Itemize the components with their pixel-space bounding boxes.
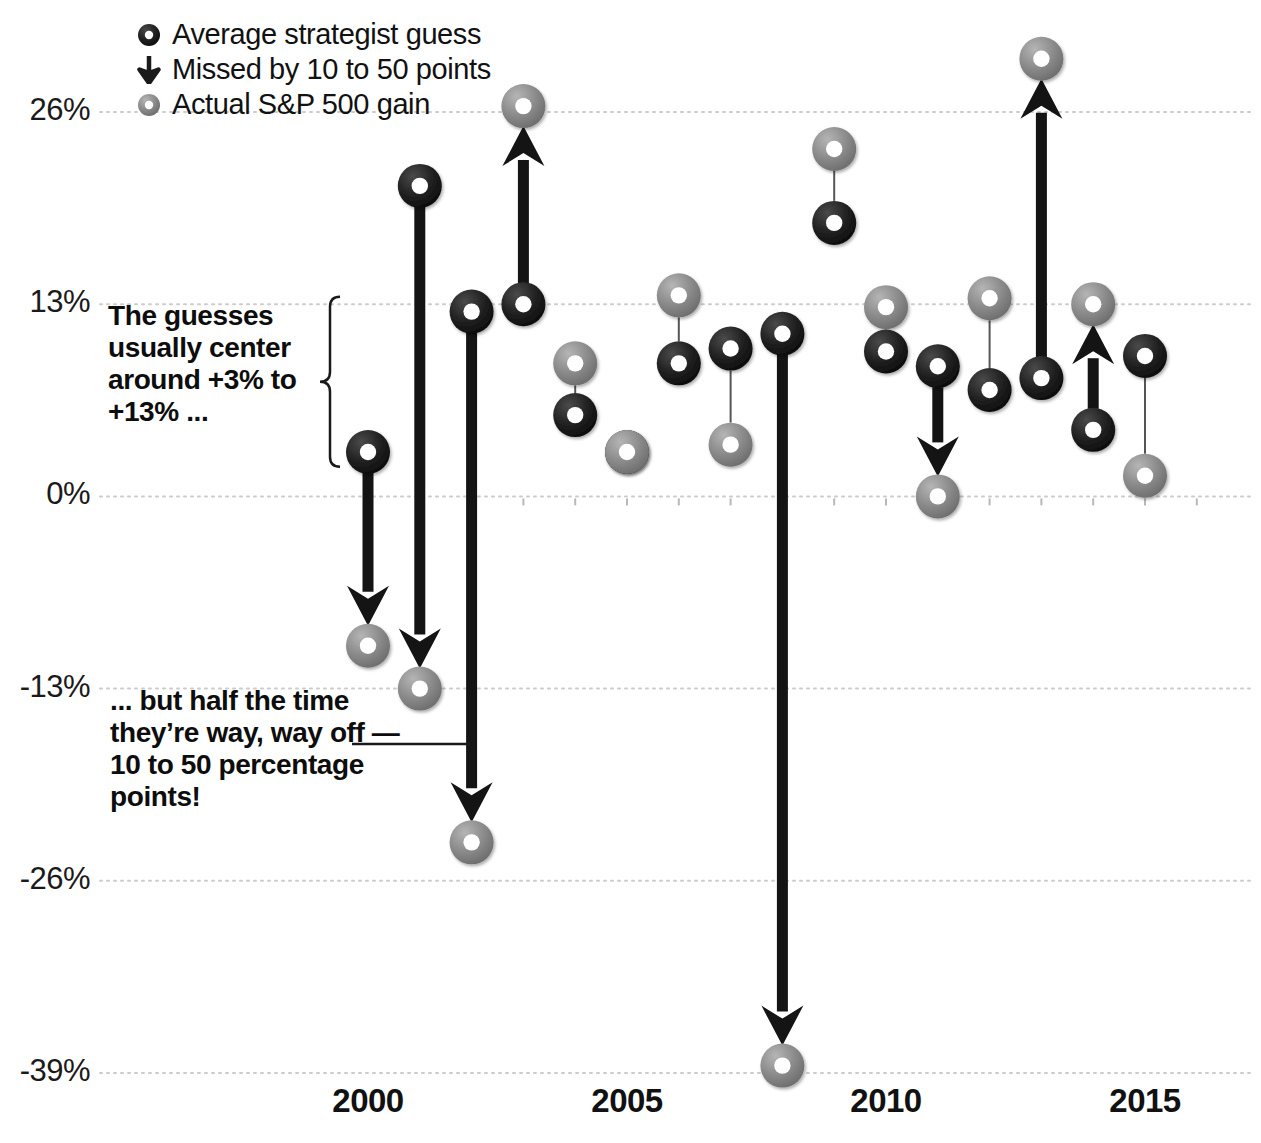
legend-item-actual: Actual S&P 500 gain [134, 88, 554, 121]
marker-actual-2007 [709, 423, 753, 467]
miss-arrow-2001 [399, 207, 441, 669]
x-axis-label-2015: 2015 [1075, 1082, 1215, 1120]
connector-lines-group [575, 171, 1145, 454]
y-axis-label-5: -39% [0, 1053, 90, 1089]
marker-guess-2002 [450, 290, 494, 334]
miss-arrow-2008 [761, 355, 803, 1046]
x-axis-label-2005: 2005 [557, 1082, 697, 1120]
marker-guess-2011 [916, 344, 960, 388]
miss-arrow-2011 [917, 387, 959, 476]
miss-arrow-2003 [502, 126, 544, 283]
marker-actual-2015 [1123, 454, 1167, 498]
miss-arrow-2002 [451, 333, 493, 823]
marker-guess-2013 [1019, 356, 1063, 400]
annotation-center-range: The guesses usually center around +3% to… [108, 300, 358, 428]
legend-label-actual: Actual S&P 500 gain [172, 88, 430, 121]
y-axis-label-0: 26% [0, 92, 90, 128]
marker-guess-2008 [760, 312, 804, 356]
marker-guess-2014 [1071, 408, 1115, 452]
x-axis-label-2010: 2010 [816, 1082, 956, 1120]
legend-item-missed: Missed by 10 to 50 points [134, 53, 554, 86]
y-axis-label-1: 13% [0, 284, 90, 320]
y-axis-label-3: -13% [0, 669, 90, 705]
marker-actual-2013 [1019, 37, 1063, 81]
marker-guess-2000 [346, 430, 390, 474]
marker-guess-2012 [968, 368, 1012, 412]
gray-donut-icon [134, 90, 164, 120]
marker-guess-2015 [1123, 334, 1167, 378]
gridlines-group [100, 112, 1250, 1073]
marker-guess-2004 [553, 393, 597, 437]
marker-actual-2002 [450, 820, 494, 864]
down-arrow-icon [134, 55, 164, 85]
legend: Average strategist guess Missed by 10 to… [134, 18, 554, 123]
scatter-plot-svg [0, 0, 1261, 1143]
marker-guess-2007 [709, 327, 753, 371]
miss-arrow-2013 [1020, 79, 1062, 357]
marker-guess-2006 [657, 341, 701, 385]
annotation-way-off: ... but half the time they’re way, way o… [110, 685, 410, 813]
miss-arrows-group [347, 79, 1114, 1046]
x-axis-label-2000: 2000 [298, 1082, 438, 1120]
legend-label-missed: Missed by 10 to 50 points [172, 53, 491, 86]
legend-label-guess: Average strategist guess [172, 18, 481, 51]
marker-actual-2010 [864, 285, 908, 329]
marker-actual-2012 [968, 276, 1012, 320]
marker-actual-2008 [760, 1044, 804, 1088]
marker-guess-2003 [501, 282, 545, 326]
marker-actual-2005 [605, 430, 649, 474]
dark-donut-icon [134, 20, 164, 50]
marker-actual-2000 [346, 624, 390, 668]
marker-actual-2009 [812, 127, 856, 171]
y-axis-label-4: -26% [0, 861, 90, 897]
marker-actual-2006 [657, 273, 701, 317]
marker-guess-2009 [812, 201, 856, 245]
marker-actual-2014 [1071, 282, 1115, 326]
chart-container: Average strategist guess Missed by 10 to… [0, 0, 1261, 1143]
marker-actual-2004 [553, 341, 597, 385]
marker-guess-2001 [398, 164, 442, 208]
miss-arrow-2014 [1072, 324, 1114, 409]
marker-guess-2010 [864, 330, 908, 374]
y-axis-label-2: 0% [0, 476, 90, 512]
legend-item-guess: Average strategist guess [134, 18, 554, 51]
marker-actual-2011 [916, 474, 960, 518]
